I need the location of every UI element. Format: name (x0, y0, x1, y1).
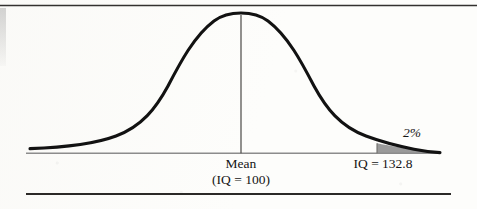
figure-root: Mean (IQ = 100) IQ = 132.8 2% (0, 0, 477, 209)
mean-label-inner: Mean (IQ = 100) (212, 157, 270, 187)
mean-value-label: (IQ = 100) (212, 173, 270, 188)
bell-curve (30, 13, 440, 153)
tail-percent-label: 2% (403, 126, 421, 141)
mean-title-label: Mean (212, 157, 270, 172)
cutoff-value-label: IQ = 132.8 (354, 157, 413, 172)
